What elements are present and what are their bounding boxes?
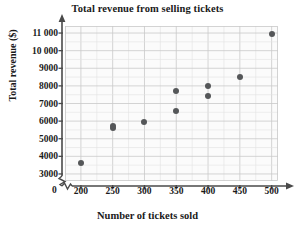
data-point [173,108,179,114]
y-tick-label: 8000 [39,81,58,91]
x-tick-label: 250 [98,186,128,196]
y-tick-label: 4000 [39,151,58,161]
data-points-layer [65,26,278,181]
origin-label: 0 [52,185,57,195]
y-tick-label: 10 000 [32,46,58,56]
data-point [110,123,116,129]
x-axis-tick-labels: 200250300350400450500 [0,186,295,202]
data-point [141,119,147,125]
x-tick-label: 400 [193,186,223,196]
data-point [269,31,275,37]
data-point [78,160,84,166]
x-tick-label: 500 [257,186,287,196]
x-tick-label: 300 [129,186,159,196]
plot-area [65,26,278,181]
data-point [173,88,179,94]
x-tick-label: 200 [66,186,96,196]
y-tick-label: 3000 [39,169,58,179]
y-tick-label: 9000 [39,63,58,73]
x-tick-label: 350 [161,186,191,196]
y-tick-label: 11 000 [32,28,58,38]
y-tick-label: 7000 [39,99,58,109]
data-point [237,74,243,80]
scatter-plot-figure: Total revenue from selling tickets Total… [0,0,295,231]
data-point [205,83,211,89]
y-tick-label: 5000 [39,134,58,144]
x-tick-label: 450 [225,186,255,196]
data-point [205,93,211,99]
y-tick-label: 6000 [39,116,58,126]
